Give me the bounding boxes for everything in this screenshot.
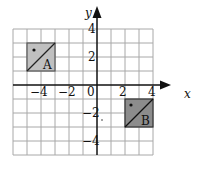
y-tick-2: 2 [88, 50, 96, 64]
shape-a: A [27, 43, 55, 72]
stray-dot [101, 119, 103, 121]
y-tick-neg2: −2 [82, 106, 100, 120]
y-tick-neg4: −4 [82, 134, 100, 148]
x-tick-0: 0 [87, 85, 95, 99]
x-tick-neg2: −2 [58, 85, 76, 99]
x-axis-label: x [184, 87, 191, 101]
x-tick-neg4: −4 [30, 85, 48, 99]
shape-a-label: A [42, 58, 52, 72]
shape-b: B [125, 99, 153, 128]
y-axis-arrow-icon [93, 6, 102, 18]
y-axis-label: y [84, 6, 92, 20]
x-tick-4: 4 [148, 85, 156, 99]
coordinate-grid-diagram: A B x y −4 −2 0 2 4 4 2 −2 −4 [0, 0, 206, 170]
y-tick-4: 4 [88, 22, 96, 36]
shape-a-dot [32, 48, 35, 51]
shape-b-label: B [141, 114, 150, 128]
shape-b-dot [129, 103, 132, 106]
x-axis-arrow-icon [160, 81, 171, 90]
x-tick-2: 2 [119, 85, 127, 99]
